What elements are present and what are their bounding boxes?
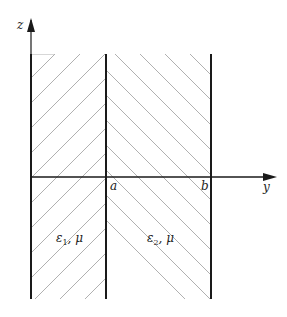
region-1-mu: , μ [68,231,83,245]
diagram-canvas: z y a b ε1, μ ε2, μ [0,0,287,317]
y-axis-label: y [263,181,270,193]
region-2-mu: , μ [159,231,174,245]
diagram-svg [0,0,287,317]
z-axis-label: z [17,19,23,31]
interface-b-label: b [201,180,209,192]
region-2-label: ε2, μ [147,232,174,247]
region-1-label: ε1, μ [56,232,83,247]
interface-a-label: a [110,180,117,192]
z-axis-arrowhead [27,18,35,32]
